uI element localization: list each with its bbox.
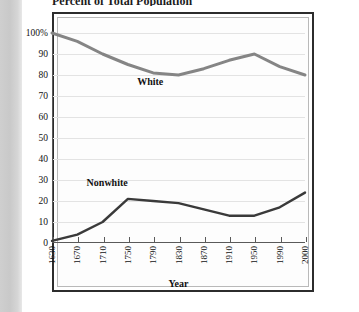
y-tick-label: 80 <box>39 70 49 80</box>
y-tick-label: 60 <box>39 112 49 122</box>
y-tick-label: 90 <box>39 49 49 59</box>
x-tick <box>306 237 307 242</box>
x-tick-label: 2000 <box>300 246 310 264</box>
x-tick-label: 1910 <box>224 246 234 264</box>
series-annotation-nonwhite: Nonwhite <box>87 177 128 188</box>
x-tick-label: 1670 <box>72 246 82 264</box>
y-tick-label: 70 <box>39 91 49 101</box>
x-tick-label: 1990 <box>275 246 285 264</box>
x-tick-label: 1790 <box>148 246 158 264</box>
series-line-nonwhite <box>52 193 305 241</box>
x-axis-title: Year <box>52 278 305 289</box>
plot-area: WhiteNonwhite <box>52 33 305 243</box>
x-tick-label: 1870 <box>199 246 209 264</box>
series-annotation-white: White <box>137 76 163 87</box>
y-tick-label: 40 <box>39 154 49 164</box>
page-title: Percent of Total Population <box>52 0 332 6</box>
x-axis-labels: 1630167017101750179018301870191019501990… <box>52 246 305 280</box>
y-tick-label: 20 <box>39 196 49 206</box>
x-tick-label: 1710 <box>98 246 108 264</box>
y-axis-labels: 0102030405060708090100% <box>0 33 48 243</box>
y-tick-label: 50 <box>39 133 49 143</box>
series-line-white <box>52 33 305 75</box>
chart-svg <box>52 33 305 243</box>
y-tick-label: 100% <box>26 28 48 38</box>
x-tick-label: 1630 <box>47 246 57 264</box>
x-tick-label: 1950 <box>249 246 259 264</box>
y-tick-label: 10 <box>39 217 49 227</box>
x-tick-label: 1830 <box>174 246 184 264</box>
x-tick-label: 1750 <box>123 246 133 264</box>
y-tick-label: 30 <box>39 175 49 185</box>
